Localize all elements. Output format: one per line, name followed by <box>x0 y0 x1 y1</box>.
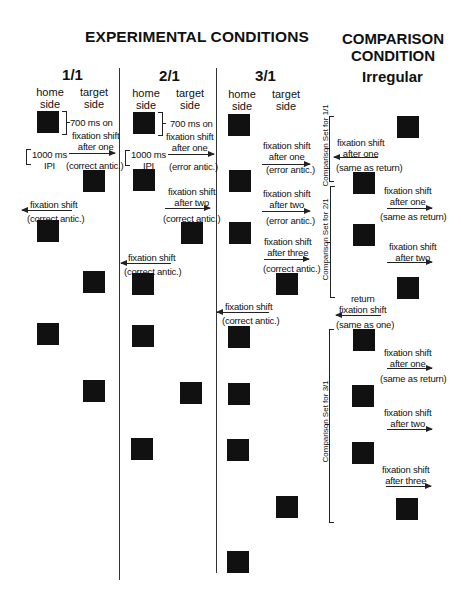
stimulus-square <box>352 442 374 464</box>
ipi-label: 1000 msIPI <box>131 149 166 171</box>
stimulus-square <box>353 172 375 194</box>
left-arrow <box>334 157 378 158</box>
stimulus-square <box>83 380 105 402</box>
stimulus-square <box>83 170 105 192</box>
ipi-label: 1000 msIPI <box>32 149 67 171</box>
stimulus-square <box>276 273 298 295</box>
col3-home-side-header: homeside <box>225 88 259 112</box>
right-arrow <box>386 486 431 487</box>
c3-shift-label-3: fixation shiftafter three <box>264 236 311 258</box>
stimulus-square <box>397 116 419 138</box>
stimulus-square <box>37 111 59 133</box>
right-arrow <box>262 211 310 212</box>
stimulus-square <box>353 329 375 351</box>
col1-target-side-header: targetside <box>76 86 112 110</box>
stimulus-square <box>352 385 374 407</box>
c3-shift-label-4: fixation shift <box>225 301 272 312</box>
stimulus-square <box>181 222 203 244</box>
col2-home-side-header: homeside <box>129 87 163 111</box>
on-time-label: 700 ms on <box>70 117 113 128</box>
c2-antic-label: (error antic.) <box>169 161 218 172</box>
comparison-set-1-1-label: Comparison Set for 1/1 <box>321 107 330 187</box>
on-time-bracket <box>158 112 163 136</box>
stimulus-square <box>396 498 418 520</box>
on-time-bracket <box>62 111 67 135</box>
ir-same-label-b: (same as return) <box>380 211 447 222</box>
stimulus-square <box>229 222 251 244</box>
condition-2-1-title: 2/1 <box>147 67 192 84</box>
right-arrow <box>387 368 432 369</box>
stimulus-square <box>353 224 375 246</box>
experimental-conditions-title: EXPERIMENTAL CONDITIONS <box>85 28 295 46</box>
ir-shift-label-b: fixation shiftafter one <box>384 185 431 207</box>
stimulus-square <box>227 439 249 461</box>
ir-shift-label-a: fixation shiftafter one <box>337 137 384 159</box>
ir-return-label: returnfixation shift <box>339 293 386 315</box>
comparison-set-2-1-bracket <box>330 186 335 298</box>
left-arrow <box>22 210 72 211</box>
right-arrow <box>387 429 432 430</box>
bracket-tick <box>162 123 166 124</box>
c1-shift-label: fixation shiftafter one <box>72 130 119 152</box>
right-arrow <box>264 259 309 260</box>
stimulus-square <box>397 277 419 299</box>
stimulus-square <box>132 325 154 347</box>
ipi-bracket <box>125 150 130 166</box>
right-arrow <box>168 154 214 155</box>
c3-antic-label-2: (error antic.) <box>266 215 315 226</box>
c2-shift-label: fixation shiftafter one <box>166 131 213 153</box>
stimulus-square <box>83 271 105 293</box>
left-arrow <box>336 315 381 316</box>
right-arrow <box>69 153 115 154</box>
c3-shift-label: fixation shiftafter one <box>263 140 310 162</box>
divider-2 <box>216 68 217 573</box>
ir-shift-label-g: fixation shiftafter three <box>382 464 429 486</box>
stimulus-square <box>228 383 250 405</box>
stimulus-square <box>227 551 249 573</box>
col2-target-side-header: targetside <box>172 87 208 111</box>
ir-same-label-e: (same as return) <box>380 373 447 384</box>
stimulus-square <box>228 114 250 136</box>
right-arrow <box>165 208 210 209</box>
c3-antic-label: (error antic.) <box>266 164 315 175</box>
comparison-title-line1: COMPARISON <box>328 30 458 47</box>
col1-home-side-header: homeside <box>33 86 67 110</box>
col3-target-side-header: targetside <box>268 88 304 112</box>
left-arrow <box>217 312 269 313</box>
stimulus-square <box>276 496 298 518</box>
ir-shift-label-f: fixation shiftafter two <box>384 407 431 429</box>
stimulus-square <box>133 169 155 191</box>
stimulus-square <box>132 273 154 295</box>
comparison-set-3-1-bracket <box>329 329 334 523</box>
stimulus-square <box>229 170 251 192</box>
stimulus-square <box>131 438 153 460</box>
c2-shift-label-3: fixation shift <box>128 252 175 263</box>
c1-shift-label-2: fixation shift <box>30 199 77 210</box>
comparison-title-line2: CONDITION <box>328 47 458 64</box>
comparison-set-3-1-label: Comparison Set for 3/1 <box>321 383 330 463</box>
comparison-set-2-1-label: Comparison Set for 2/1 <box>321 201 330 281</box>
stimulus-square <box>37 323 59 345</box>
left-arrow <box>121 263 171 264</box>
c3-shift-label-2: fixation shiftafter two <box>263 188 310 210</box>
stimulus-square <box>228 326 250 348</box>
comparison-set-1-1-bracket <box>329 116 334 182</box>
comparison-condition-title: COMPARISON CONDITION <box>328 30 458 64</box>
condition-1-1-title: 1/1 <box>50 66 95 83</box>
right-arrow <box>387 208 432 209</box>
ir-shift-label-e: fixation shiftafter one <box>384 347 431 369</box>
stimulus-square <box>133 112 155 134</box>
c3-antic-label-4: (correct antic.) <box>222 315 280 326</box>
right-arrow <box>387 262 432 263</box>
on-time-label: 700 ms on <box>170 118 213 129</box>
stimulus-square <box>180 382 202 404</box>
stimulus-square <box>37 220 59 242</box>
condition-3-1-title: 3/1 <box>243 67 288 84</box>
ipi-bracket <box>26 149 31 165</box>
condition-irregular-title: Irregular <box>350 68 435 85</box>
